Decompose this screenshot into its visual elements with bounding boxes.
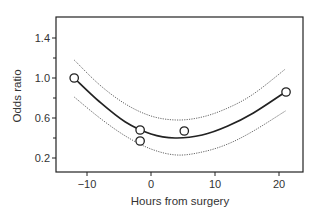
x-tick-label: 0 [148,178,154,190]
x-axis-label: Hours from surgery [131,195,230,207]
observed-point [70,74,78,82]
confidence-limit-curve [74,60,285,120]
y-tick-label: 0.6 [35,112,50,124]
y-tick-label: 0.2 [35,152,50,164]
observed-point [180,127,188,135]
series-layer [70,60,290,155]
x-axis-ticks: −1001020 [78,172,285,190]
y-tick-label: 1.0 [35,72,50,84]
odds-ratio-chart: −1001020 0.20.61.01.4 Hours from surgery… [0,0,320,215]
confidence-limit-curve [74,97,285,155]
fitted-curve [74,78,285,138]
y-axis-ticks: 0.20.61.01.4 [35,32,56,164]
observed-point [282,88,290,96]
x-tick-label: 10 [209,178,221,190]
y-tick-label: 1.4 [35,32,50,44]
observed-point [136,126,144,134]
y-axis-label: Odds ratio [11,69,23,122]
x-tick-label: 20 [273,178,285,190]
plot-frame [56,17,303,172]
x-tick-label: −10 [78,178,97,190]
observed-point [136,137,144,145]
